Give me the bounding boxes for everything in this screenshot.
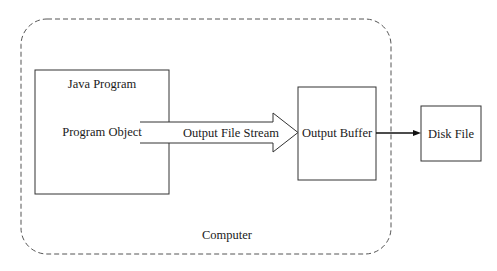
- disk-file-label: Disk File: [428, 128, 474, 141]
- program-object-label: Program Object: [62, 126, 142, 139]
- buffer-to-disk-arrowhead-icon: [413, 130, 421, 136]
- computer-label: Computer: [202, 229, 252, 242]
- output-buffer-label: Output Buffer: [302, 127, 372, 140]
- output-file-stream-label: Output File Stream: [183, 127, 279, 140]
- java-program-title: Java Program: [68, 78, 136, 91]
